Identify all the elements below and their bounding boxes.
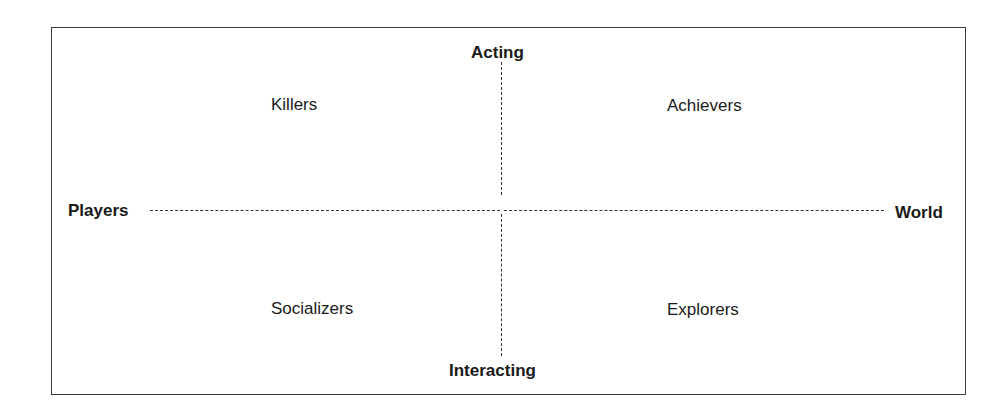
axis-label-top: Acting bbox=[471, 44, 524, 61]
quadrant-socializers: Socializers bbox=[271, 300, 353, 317]
axis-label-bottom: Interacting bbox=[449, 362, 536, 379]
quadrant-explorers: Explorers bbox=[667, 301, 739, 318]
vertical-axis-lower bbox=[501, 214, 502, 356]
axis-label-left: Players bbox=[68, 202, 129, 219]
horizontal-axis-right bbox=[504, 210, 884, 211]
diagram-frame bbox=[51, 27, 966, 395]
quadrant-achievers: Achievers bbox=[667, 97, 742, 114]
horizontal-axis-left bbox=[150, 210, 500, 211]
axis-label-right: World bbox=[895, 204, 943, 221]
quadrant-killers: Killers bbox=[271, 96, 317, 113]
vertical-axis-upper bbox=[501, 62, 502, 195]
